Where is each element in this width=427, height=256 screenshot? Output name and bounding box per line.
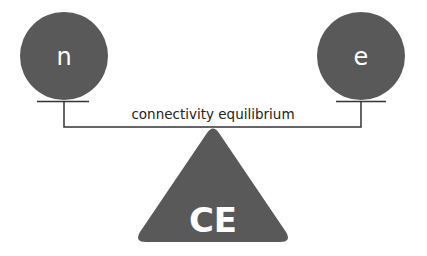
node-n: n <box>20 12 108 102</box>
connection-label: connectivity equilibrium <box>131 106 294 122</box>
node-e-label: e <box>354 43 369 71</box>
node-n-label: n <box>56 43 71 71</box>
fulcrum: CE <box>138 129 288 243</box>
node-e: e <box>317 12 405 102</box>
fulcrum-label: CE <box>189 200 237 240</box>
balance-diagram: n e connectivity equilibrium CE <box>0 0 427 256</box>
